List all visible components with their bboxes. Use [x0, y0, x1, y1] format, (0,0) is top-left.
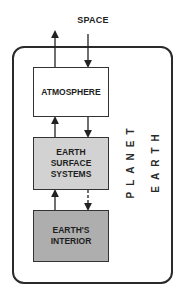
- surface-label-line1: EARTH: [51, 147, 92, 158]
- earths-interior-box: EARTH'S INTERIOR: [33, 210, 109, 262]
- interior-label-line2: INTERIOR: [51, 236, 92, 247]
- earth-vertical-label: EARTH: [150, 121, 161, 201]
- surface-label-line3: SYSTEMS: [51, 169, 92, 180]
- surface-label-line2: SURFACE: [51, 158, 92, 169]
- planet-vertical-label: PLANET: [125, 121, 136, 201]
- atmosphere-box: ATMOSPHERE: [33, 67, 109, 117]
- interior-label-line1: EARTH'S: [51, 225, 92, 236]
- atmosphere-label: ATMOSPHERE: [41, 87, 100, 98]
- earth-surface-systems-box: EARTH SURFACE SYSTEMS: [33, 137, 109, 190]
